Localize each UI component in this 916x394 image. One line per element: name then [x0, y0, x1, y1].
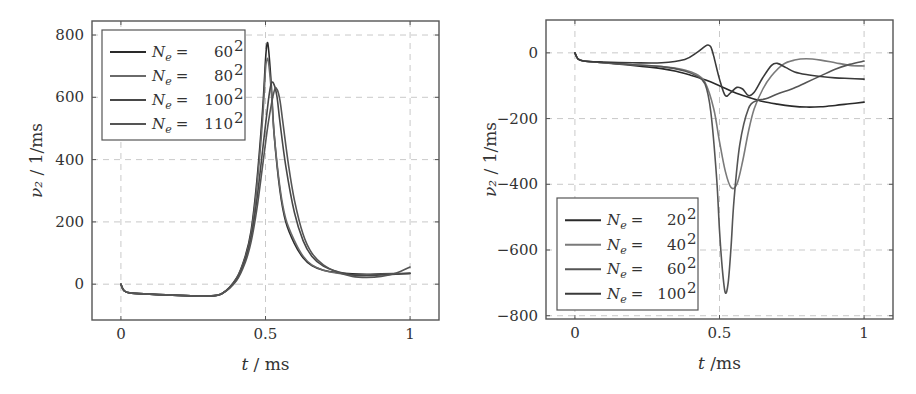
x-tick-label: 1 [405, 325, 415, 343]
legend-exponent: 2 [234, 61, 244, 79]
chart-right: 00.51−800−600−400−2000 t /ms ν₂ / 1/ms N… [480, 20, 893, 373]
legend-exponent: 2 [234, 85, 244, 103]
y-tick-label: 200 [55, 213, 84, 231]
y-tick-label: 0 [74, 275, 84, 293]
y-axis-variable: ν₂ [480, 180, 500, 197]
y-tick-label: −400 [497, 175, 538, 193]
y-axis-unit: / 1/ms [480, 122, 500, 180]
y-tick-label: −800 [497, 307, 538, 325]
x-axis-unit: /ms [705, 353, 741, 373]
x-tick-label: 0.5 [708, 324, 732, 342]
legend-exponent: 2 [687, 205, 697, 223]
y-axis-label-right: ν₂ / 1/ms [480, 122, 500, 197]
x-axis-label-right: t /ms [698, 353, 741, 373]
legend-exponent: 2 [234, 37, 244, 55]
x-tick-label: 0 [116, 325, 126, 343]
figure: 00.510200400600800 t / ms ν₂ / 1/ms Ne=6… [0, 0, 916, 394]
x-tick-label: 0 [570, 324, 580, 342]
y-tick-label: 600 [55, 88, 84, 106]
legend-exponent: 2 [687, 279, 697, 297]
y-axis-unit: / 1/ms [26, 123, 46, 181]
legend-right: Ne=202Ne=402Ne=602Ne=1002 [557, 198, 698, 310]
y-tick-label: 400 [55, 151, 84, 169]
legend-left: Ne=602Ne=802Ne=1002Ne=1102 [102, 30, 245, 140]
y-tick-label: −600 [497, 241, 538, 259]
y-axis-label-left: ν₂ / 1/ms [26, 123, 46, 198]
legend-exponent: 2 [687, 230, 697, 248]
x-axis-label-left: t / ms [241, 354, 289, 374]
y-tick-label: 800 [55, 26, 84, 44]
y-tick-label: 0 [528, 44, 538, 62]
y-axis-variable: ν₂ [26, 181, 46, 198]
legend-exponent: 2 [687, 254, 697, 272]
y-tick-label: −200 [497, 110, 538, 128]
x-axis-unit: / ms [248, 354, 289, 374]
x-tick-label: 1 [859, 324, 869, 342]
chart-left: 00.510200400600800 t / ms ν₂ / 1/ms Ne=6… [26, 21, 439, 374]
x-tick-label: 0.5 [254, 325, 278, 343]
legend-exponent: 2 [234, 109, 244, 127]
